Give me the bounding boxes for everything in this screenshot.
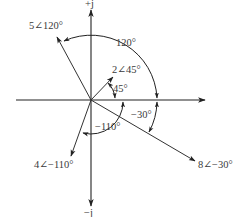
phasor-label-5-120: 5∠120° <box>29 20 63 31</box>
imag-neg-label: −j <box>84 207 93 217</box>
phasor-5-120 <box>57 37 91 100</box>
phasor-label-8-neg30: 8∠−30° <box>198 159 233 170</box>
phasor-diagram: +j −j 5∠120° 2∠45° 4∠−110° 8∠−30° 120° 4… <box>0 0 235 217</box>
phasor-2-45 <box>91 77 113 100</box>
phasor-label-4-neg110: 4∠−110° <box>34 159 74 170</box>
angle-arcs: 120° 45° −30° −110° <box>64 35 157 134</box>
arc-label-120: 120° <box>116 37 136 48</box>
arc-label-neg110: −110° <box>95 121 120 132</box>
phasor-4-neg110 <box>71 100 91 156</box>
axes: +j −j <box>16 0 205 217</box>
phasor-label-2-45: 2∠45° <box>112 64 141 75</box>
imag-pos-label: +j <box>85 0 94 9</box>
arc-120 <box>64 35 157 98</box>
arc-label-neg30: −30° <box>131 109 152 120</box>
arc-label-45: 45° <box>113 83 128 94</box>
phasor-diagram-canvas: +j −j 5∠120° 2∠45° 4∠−110° 8∠−30° 120° 4… <box>0 0 235 217</box>
